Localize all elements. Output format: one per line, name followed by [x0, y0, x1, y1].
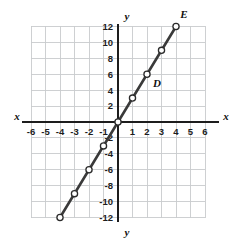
y-axis-label-bottom: y: [123, 226, 130, 238]
point-label-d: D: [152, 77, 161, 89]
data-point-marker: [129, 95, 135, 101]
y-tick-label: 10: [102, 37, 113, 48]
y-tick-label: -8: [105, 180, 113, 191]
y-tick-label: -10: [99, 196, 113, 207]
data-point-marker: [144, 71, 150, 77]
x-tick-label: 2: [144, 126, 149, 137]
data-point-marker: [115, 119, 121, 125]
y-tick-label: -6: [105, 164, 113, 175]
data-point-marker: [158, 47, 164, 53]
x-tick-label: 1: [130, 126, 136, 137]
x-tick-label: -3: [70, 126, 78, 137]
x-tick-label: 3: [159, 126, 164, 137]
x-tick-label: -2: [85, 126, 93, 137]
x-tick-label: 6: [202, 126, 207, 137]
x-axis-label-right: x: [222, 110, 229, 122]
x-tick-label: 4: [173, 126, 179, 137]
point-annotations: DE: [152, 8, 188, 89]
x-tick-label: -4: [56, 126, 65, 137]
data-point-marker: [57, 214, 63, 220]
y-tick-label: -4: [105, 148, 114, 159]
x-tick-label: 5: [188, 126, 194, 137]
x-axis-label-left: x: [13, 110, 20, 122]
y-tick-label: -12: [99, 212, 113, 223]
data-point-marker: [71, 191, 77, 197]
x-tick-label: -5: [41, 126, 50, 137]
point-label-e: E: [179, 8, 187, 20]
y-axis-label-top: y: [123, 10, 130, 22]
y-tick-label: 6: [108, 69, 113, 80]
y-tick-label: 4: [108, 85, 114, 96]
y-tick-label: 12: [102, 21, 113, 32]
y-tick-label: 8: [108, 53, 113, 64]
graph-canvas: -6-5-4-3-2-112345612108642-2-4-6-8-10-12…: [0, 0, 241, 245]
x-tick-label: -6: [27, 126, 35, 137]
data-point-marker: [100, 143, 106, 149]
y-tick-label: 2: [108, 100, 113, 111]
coordinate-graph-figure: -6-5-4-3-2-112345612108642-2-4-6-8-10-12…: [0, 0, 241, 245]
data-point-marker: [86, 167, 92, 173]
data-point-marker: [173, 23, 179, 29]
